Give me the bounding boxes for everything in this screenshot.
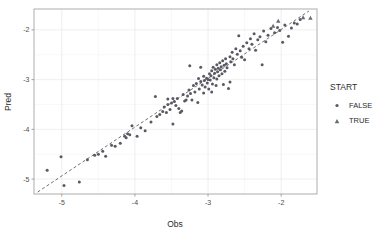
data-point-circle — [218, 74, 221, 77]
data-point-circle — [196, 101, 199, 104]
data-point-circle — [228, 55, 231, 58]
data-point-circle — [221, 59, 224, 62]
data-point-circle — [144, 129, 147, 132]
data-point-circle — [78, 181, 81, 184]
legend-item-label: TRUE — [349, 116, 369, 125]
data-point-circle — [215, 78, 218, 81]
data-point-circle — [154, 95, 157, 98]
data-point-circle — [110, 144, 113, 147]
y-tick-label: -2 — [23, 26, 29, 33]
data-point-circle — [220, 65, 223, 68]
data-point-circle — [206, 82, 209, 85]
data-point-circle — [171, 122, 174, 125]
data-point-circle — [176, 97, 179, 100]
data-point-circle — [158, 113, 161, 116]
data-point-circle — [114, 145, 117, 148]
data-point-circle — [136, 135, 139, 138]
data-point-circle — [249, 37, 252, 40]
data-point-circle — [222, 83, 225, 86]
data-point-circle — [128, 133, 131, 136]
data-point-circle — [60, 155, 63, 158]
data-point-circle — [234, 47, 237, 50]
data-point-circle — [290, 26, 293, 29]
data-point-circle — [231, 51, 234, 54]
data-point-circle — [202, 75, 205, 78]
data-point-circle — [101, 150, 104, 153]
data-point-circle — [182, 93, 185, 96]
data-point-circle — [155, 115, 158, 118]
data-point-circle — [93, 154, 96, 157]
y-axis-title: Pred — [3, 93, 13, 111]
data-point-circle — [278, 29, 281, 32]
data-point-circle — [287, 35, 290, 38]
data-point-circle — [218, 61, 221, 64]
data-point-circle — [247, 47, 250, 50]
data-point-circle — [207, 88, 210, 91]
data-point-circle — [231, 57, 234, 60]
x-tick-label: -4 — [132, 199, 138, 206]
data-point-circle — [283, 23, 286, 26]
data-point-circle — [185, 99, 188, 102]
data-point-circle — [210, 91, 213, 94]
y-tick-label: -4 — [23, 126, 29, 133]
data-point-circle — [213, 72, 216, 75]
data-point-circle — [186, 95, 189, 98]
data-point-circle — [173, 100, 176, 103]
data-point-circle — [180, 109, 183, 112]
data-point-circle — [97, 153, 100, 156]
data-point-circle — [202, 92, 205, 95]
data-point-circle — [130, 124, 133, 127]
y-tick-label: -3 — [23, 76, 29, 83]
legend-title: START — [330, 82, 357, 92]
data-point-circle — [245, 41, 248, 44]
data-point-circle — [227, 87, 230, 90]
data-point-circle — [150, 120, 153, 123]
data-point-circle — [62, 184, 65, 187]
legend-item-label: FALSE — [349, 101, 372, 110]
data-point-circle — [267, 34, 270, 37]
data-point-circle — [197, 77, 200, 80]
data-point-circle — [203, 79, 206, 82]
plot-canvas: -5-4-3-2 -2-3-4-5 Obs Pred START FALSETR… — [0, 0, 382, 235]
data-point-circle — [215, 84, 218, 87]
data-point-circle — [190, 99, 193, 102]
data-point-circle — [262, 29, 265, 32]
data-point-circle — [209, 79, 212, 82]
data-point-circle — [199, 80, 202, 83]
data-point-circle — [250, 43, 253, 46]
data-point-circle — [233, 63, 236, 66]
data-point-circle — [253, 32, 256, 35]
data-point-circle — [228, 81, 231, 84]
data-point-circle — [46, 169, 49, 172]
data-point-circle — [188, 89, 191, 92]
data-point-circle — [193, 91, 196, 94]
data-point-circle — [254, 49, 257, 52]
data-point-circle — [273, 31, 276, 34]
data-point-circle — [240, 56, 243, 59]
data-point-circle — [239, 49, 242, 52]
data-point-circle — [165, 111, 168, 114]
data-point-circle — [216, 70, 219, 73]
data-point-circle — [226, 66, 229, 69]
data-point-circle — [224, 57, 227, 60]
x-tick-label: -3 — [205, 199, 211, 206]
data-point-circle — [256, 38, 259, 41]
data-point-circle — [281, 41, 284, 44]
data-point-circle — [201, 84, 204, 87]
data-point-circle — [195, 82, 198, 85]
data-point-circle — [161, 110, 164, 113]
legend-key-circle — [335, 104, 338, 107]
data-point-circle — [198, 88, 201, 91]
data-point-circle — [104, 155, 107, 158]
data-point-circle — [204, 86, 207, 89]
data-point-circle — [220, 72, 223, 75]
data-point-circle — [261, 63, 264, 66]
x-axis-title: Obs — [167, 219, 183, 229]
data-point-circle — [214, 68, 217, 71]
data-point-circle — [299, 18, 302, 21]
data-point-circle — [242, 45, 245, 48]
data-point-circle — [258, 35, 261, 38]
data-point-circle — [236, 53, 239, 56]
x-tick-label: -2 — [278, 199, 284, 206]
data-point-circle — [177, 107, 180, 110]
